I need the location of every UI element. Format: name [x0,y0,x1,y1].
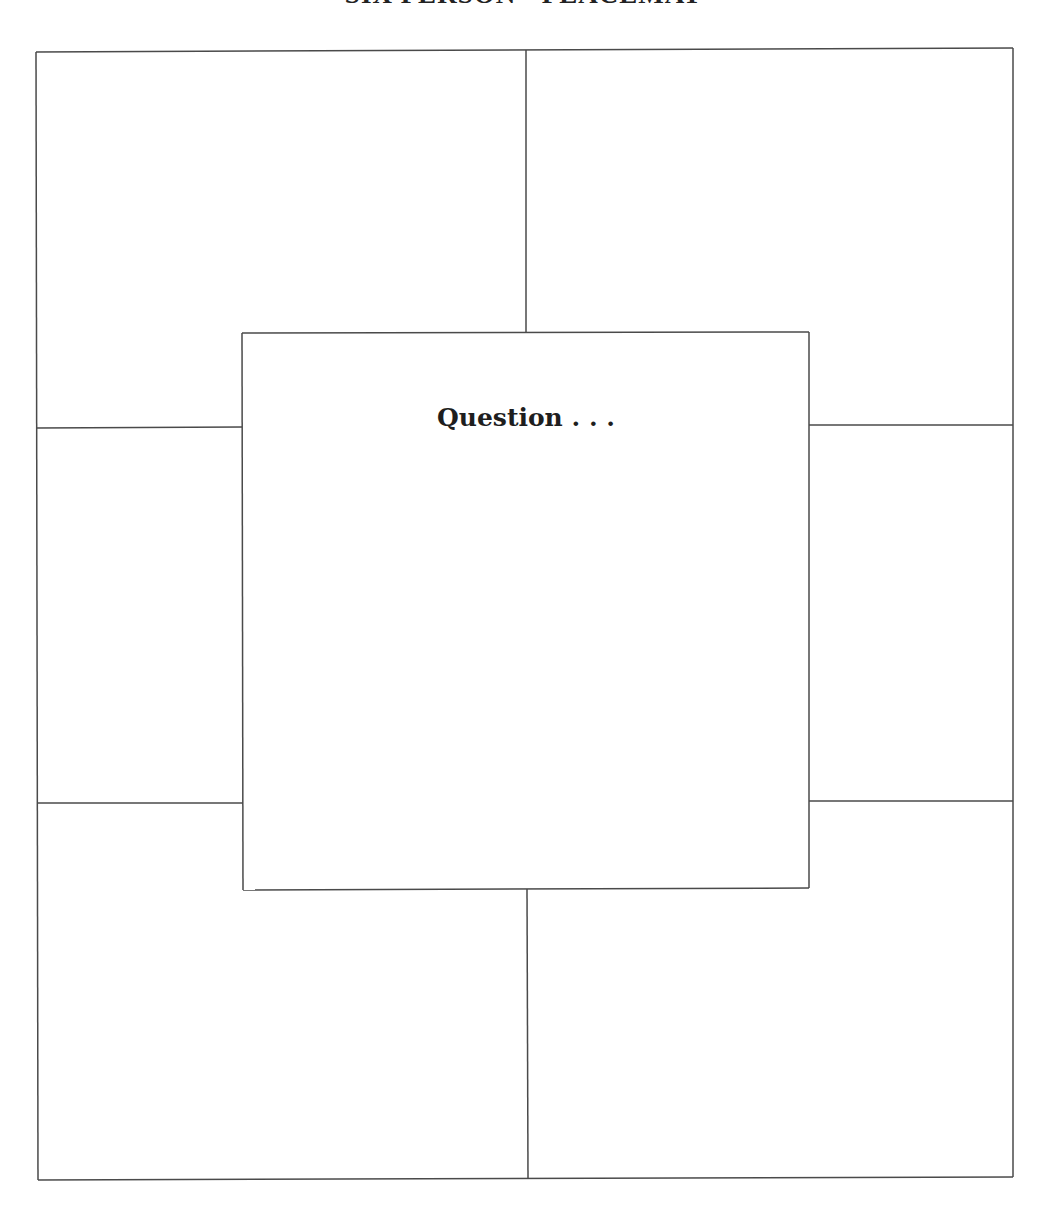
question-label: Question . . . [243,402,809,434]
bottom-vertical-divider [527,889,528,1179]
person-4-area [811,427,1012,800]
person-3-area [38,429,241,802]
upper-left-divider [37,427,242,428]
